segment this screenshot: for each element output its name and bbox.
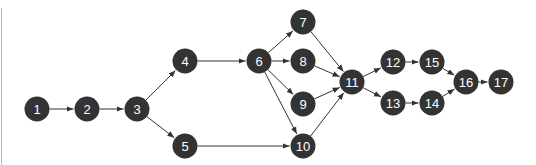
node-2: 2 [75, 97, 100, 122]
edge-3-4 [146, 71, 176, 101]
edge-15-16 [443, 68, 455, 75]
node-label: 17 [494, 75, 508, 90]
edge-6-7 [268, 31, 293, 53]
node-8: 8 [291, 49, 316, 74]
node-3: 3 [125, 97, 150, 122]
node-label: 1 [33, 102, 40, 117]
edge-8-11 [314, 66, 339, 77]
node-label: 5 [181, 139, 188, 154]
nodes-group: 1234567891011121314151617 [25, 10, 514, 159]
node-17: 17 [489, 70, 514, 95]
node-6: 6 [247, 49, 272, 74]
node-7: 7 [291, 10, 316, 35]
diagram-canvas: 1234567891011121314151617 [0, 0, 536, 165]
node-5: 5 [173, 134, 198, 159]
node-15: 15 [420, 50, 445, 75]
edge-7-11 [311, 32, 344, 72]
node-label: 6 [255, 54, 262, 69]
node-label: 2 [83, 102, 90, 117]
node-16: 16 [454, 70, 479, 95]
node-1: 1 [25, 97, 50, 122]
edge-3-5 [147, 117, 174, 138]
node-label: 9 [299, 97, 306, 112]
edge-14-16 [443, 89, 455, 96]
node-label: 4 [181, 54, 188, 69]
node-12: 12 [381, 50, 406, 75]
edge-11-13 [363, 88, 381, 97]
node-14: 14 [420, 91, 445, 116]
node-13: 13 [381, 91, 406, 116]
node-label: 7 [299, 15, 306, 30]
node-label: 13 [386, 96, 400, 111]
edge-11-12 [363, 68, 381, 77]
edge-6-9 [268, 70, 293, 95]
edge-9-11 [314, 88, 339, 99]
node-label: 11 [345, 75, 359, 90]
network-diagram: 1234567891011121314151617 [0, 0, 536, 165]
edge-10-11 [311, 93, 344, 136]
node-label: 14 [425, 96, 439, 111]
node-label: 8 [299, 54, 306, 69]
node-label: 15 [425, 55, 439, 70]
node-label: 10 [296, 139, 310, 154]
edges-group [50, 31, 488, 146]
node-label: 12 [386, 55, 400, 70]
node-9: 9 [291, 92, 316, 117]
node-10: 10 [291, 134, 316, 159]
node-label: 3 [133, 102, 140, 117]
node-label: 16 [459, 75, 473, 90]
node-4: 4 [173, 49, 198, 74]
node-11: 11 [340, 70, 365, 95]
